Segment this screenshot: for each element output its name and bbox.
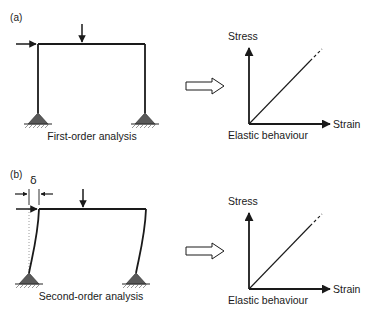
frame-column-left-deformed xyxy=(29,209,39,273)
stress-strain-plot xyxy=(249,213,330,289)
frame-column-right-deformed xyxy=(136,209,146,273)
support-pinned-left xyxy=(24,113,52,128)
frame-caption-second-order: Second-order analysis xyxy=(26,290,156,303)
stress-strain-plot xyxy=(249,48,330,124)
plot-caption-elastic: Elastic behaviour xyxy=(228,129,308,142)
plot-elastic-line-extension xyxy=(310,214,322,226)
plot-x-axis-label: Strain xyxy=(333,118,360,131)
transition-block-arrow xyxy=(186,243,224,259)
plot-caption-elastic: Elastic behaviour xyxy=(228,294,308,307)
plot-y-axis-label: Stress xyxy=(228,195,258,208)
figure-root: (a) xyxy=(0,0,372,322)
plot-x-axis-label: Strain xyxy=(333,283,360,296)
plot-elastic-line xyxy=(249,61,310,124)
plot-y-axis-label: Stress xyxy=(228,30,258,43)
support-pinned-right xyxy=(131,113,159,128)
plot-elastic-line xyxy=(249,226,310,289)
transition-block-arrow xyxy=(186,78,224,94)
frame-caption-first-order: First-order analysis xyxy=(34,130,150,143)
panel-second-order: (b) xyxy=(0,161,372,322)
support-pinned-left xyxy=(15,273,43,288)
plot-elastic-line-extension xyxy=(310,49,322,61)
panel-first-order: (a) xyxy=(0,0,372,161)
sway-delta-symbol: δ xyxy=(30,175,37,187)
support-pinned-right xyxy=(122,273,150,288)
